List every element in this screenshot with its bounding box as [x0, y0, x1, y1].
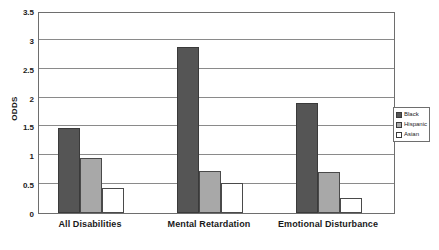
- bar-mental-retardation-hispanic: [199, 171, 221, 213]
- y-tick-label: 1: [4, 152, 34, 161]
- y-tick-label: 3: [4, 36, 34, 45]
- legend-swatch-icon: [396, 122, 402, 128]
- x-axis-tick-labels: All DisabilitiesMental RetardationEmotio…: [38, 219, 395, 239]
- bar-mental-retardation-black: [177, 47, 199, 213]
- y-tick-label: 3.5: [4, 8, 34, 17]
- bar-all-disabilities-black: [58, 128, 80, 213]
- legend-swatch-icon: [396, 112, 402, 118]
- legend-item-label: Asian: [404, 131, 419, 138]
- bar-emotional-disturbance-black: [296, 103, 318, 213]
- legend-swatch-icon: [396, 132, 402, 138]
- x-tick-label: All Disabilities: [58, 219, 121, 229]
- bar-mental-retardation-asian: [221, 183, 243, 213]
- legend-item-asian[interactable]: Asian: [396, 130, 427, 139]
- x-tick-label: Emotional Disturbance: [278, 219, 378, 229]
- y-tick-label: 0: [4, 210, 34, 219]
- legend-item-label: Black: [404, 111, 419, 118]
- legend-item-hispanic[interactable]: Hispanic: [396, 120, 427, 129]
- y-tick-label: 2: [4, 94, 34, 103]
- bar-all-disabilities-asian: [102, 188, 124, 213]
- bar-all-disabilities-hispanic: [80, 158, 102, 213]
- y-tick-label: 0.5: [4, 181, 34, 190]
- legend-item-black[interactable]: Black: [396, 110, 427, 119]
- plot-area: [38, 12, 395, 214]
- x-tick-label: Mental Retardation: [168, 219, 251, 229]
- y-tick-label: 1.5: [4, 123, 34, 132]
- bars-layer: [39, 13, 394, 213]
- legend-item-label: Hispanic: [404, 121, 427, 128]
- chart-legend: BlackHispanicAsian: [393, 107, 430, 142]
- bar-emotional-disturbance-hispanic: [318, 172, 340, 213]
- y-axis-tick-labels: 00.511.522.533.5: [0, 12, 34, 214]
- bar-emotional-disturbance-asian: [340, 198, 362, 213]
- y-tick-label: 2.5: [4, 65, 34, 74]
- bar-chart: ODDS 00.511.522.533.5 All DisabilitiesMe…: [0, 0, 439, 250]
